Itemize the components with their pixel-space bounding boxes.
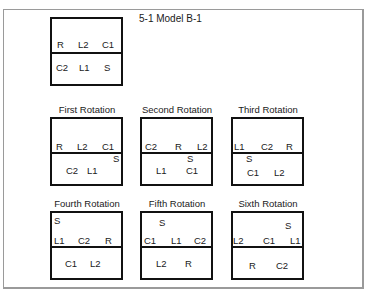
net-line bbox=[142, 246, 211, 248]
rotation-caption-2: Second Rotation bbox=[132, 104, 222, 115]
base-court: RL2C1C2L1S bbox=[50, 17, 123, 86]
rotation-court-2: C2RL2SL1C1 bbox=[140, 117, 213, 186]
player-position-r: R bbox=[249, 261, 256, 271]
player-position-l2: L2 bbox=[274, 168, 285, 178]
player-position-r: R bbox=[175, 142, 182, 152]
rotation-caption-4: Fourth Rotation bbox=[42, 198, 132, 209]
player-position-l1: L1 bbox=[54, 236, 65, 246]
player-position-c2: C2 bbox=[66, 166, 78, 176]
net-line bbox=[52, 152, 121, 154]
player-position-l2: L2 bbox=[90, 259, 101, 269]
player-position-s: S bbox=[113, 154, 119, 164]
net-line bbox=[233, 246, 302, 248]
player-position-l2: L2 bbox=[156, 259, 167, 269]
rotation-court-6: SL2C1L1RC2 bbox=[231, 211, 304, 280]
net-line bbox=[52, 52, 121, 54]
player-position-c1: C1 bbox=[65, 259, 77, 269]
player-position-c2: C2 bbox=[261, 142, 273, 152]
rotation-caption-3: Third Rotation bbox=[223, 104, 313, 115]
player-position-c1: C1 bbox=[144, 236, 156, 246]
player-position-l2: L2 bbox=[78, 40, 89, 50]
player-position-l1: L1 bbox=[156, 166, 167, 176]
player-position-r: R bbox=[57, 40, 64, 50]
player-position-c1: C1 bbox=[102, 40, 114, 50]
net-line bbox=[233, 152, 302, 154]
diagram-title: 5-1 Model B-1 bbox=[139, 13, 202, 24]
player-position-l2: L2 bbox=[197, 142, 208, 152]
player-position-r: R bbox=[286, 142, 293, 152]
player-position-c2: C2 bbox=[78, 236, 90, 246]
rotation-court-3: L1C2RSC1L2 bbox=[231, 117, 304, 186]
player-position-s: S bbox=[54, 216, 60, 226]
player-position-l1: L1 bbox=[290, 236, 301, 246]
player-position-c2: C2 bbox=[145, 142, 157, 152]
player-position-c2: C2 bbox=[194, 236, 206, 246]
rotation-court-4: SL1C2RC1L2 bbox=[50, 211, 123, 280]
rotation-court-5: SC1L1C2L2R bbox=[140, 211, 213, 280]
player-position-r: R bbox=[185, 259, 192, 269]
player-position-l1: L1 bbox=[171, 236, 182, 246]
player-position-c1: C1 bbox=[263, 236, 275, 246]
player-position-l2: L2 bbox=[233, 236, 244, 246]
player-position-s: S bbox=[285, 221, 291, 231]
rotation-court-1: RL2C1SC2L1 bbox=[50, 117, 123, 186]
player-position-c1: C1 bbox=[102, 142, 114, 152]
player-position-l1: L1 bbox=[79, 63, 90, 73]
player-position-s: S bbox=[246, 154, 252, 164]
player-position-s: S bbox=[187, 154, 193, 164]
player-position-c2: C2 bbox=[276, 261, 288, 271]
rotation-caption-5: Fifth Rotation bbox=[132, 198, 222, 209]
net-line bbox=[142, 152, 211, 154]
rotation-caption-1: First Rotation bbox=[42, 104, 132, 115]
player-position-c2: C2 bbox=[56, 63, 68, 73]
player-position-s: S bbox=[159, 218, 165, 228]
player-position-s: S bbox=[104, 63, 110, 73]
player-position-l1: L1 bbox=[234, 142, 245, 152]
player-position-l2: L2 bbox=[77, 142, 88, 152]
rotation-caption-6: Sixth Rotation bbox=[223, 198, 313, 209]
player-position-r: R bbox=[56, 142, 63, 152]
player-position-r: R bbox=[105, 236, 112, 246]
net-line bbox=[52, 246, 121, 248]
player-position-c1: C1 bbox=[247, 168, 259, 178]
player-position-c1: C1 bbox=[186, 166, 198, 176]
player-position-l1: L1 bbox=[87, 166, 98, 176]
